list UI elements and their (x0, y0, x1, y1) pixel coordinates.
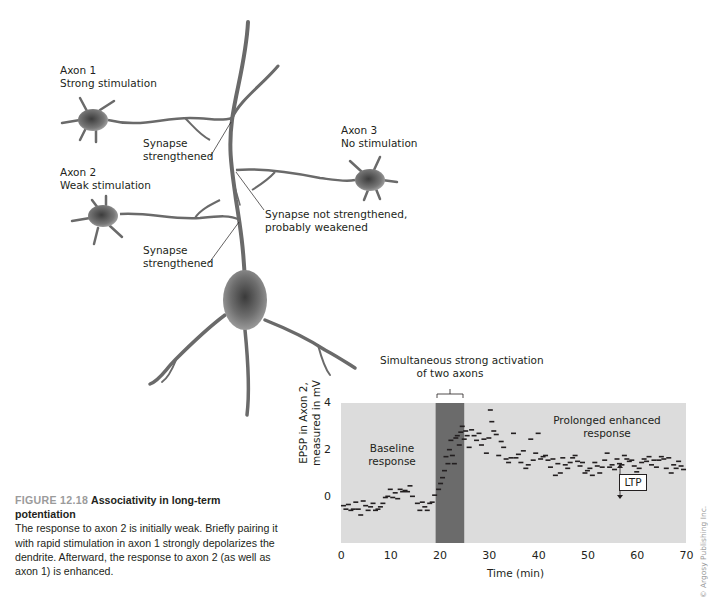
ytick-4: 4 (324, 396, 331, 409)
xtick-10: 10 (384, 549, 398, 562)
x-axis-title: Time (min) (487, 567, 544, 579)
data-point (597, 472, 602, 474)
data-point (548, 466, 553, 468)
data-point (582, 472, 587, 474)
data-point (438, 483, 443, 485)
xtick-60: 60 (630, 549, 644, 562)
data-point (380, 503, 385, 505)
data-point (671, 464, 676, 466)
data-point (509, 457, 514, 459)
data-point (513, 457, 518, 459)
xtick-30: 30 (482, 549, 496, 562)
data-point (528, 438, 533, 440)
data-point (341, 505, 346, 507)
data-point (605, 452, 610, 454)
data-point (375, 508, 380, 510)
data-point (681, 469, 686, 471)
data-point (430, 501, 435, 503)
data-point (453, 437, 458, 439)
data-point (521, 450, 526, 452)
data-point (607, 466, 612, 468)
data-point (563, 464, 568, 466)
data-point (565, 468, 570, 470)
data-point (398, 489, 403, 491)
cell-body (223, 270, 267, 330)
data-point (465, 435, 470, 437)
data-point (455, 435, 460, 437)
data-point (479, 444, 484, 446)
data-point (523, 468, 528, 470)
data-point (511, 433, 516, 435)
baseline-line1: Baseline (360, 442, 424, 455)
data-point (543, 455, 548, 457)
data-point (649, 464, 654, 466)
data-point (415, 503, 420, 505)
data-point (602, 459, 607, 461)
stimulation-bracket (437, 389, 463, 398)
data-point (674, 468, 679, 470)
data-point (469, 429, 474, 431)
data-point (516, 454, 521, 456)
data-point (405, 491, 410, 493)
axon1-desc: Strong stimulation (60, 77, 157, 90)
data-point (590, 475, 595, 477)
axon2-neuron (72, 196, 240, 244)
data-point (531, 459, 536, 461)
synapse1-label: Synapse strengthened (143, 137, 213, 163)
data-point (474, 440, 479, 442)
data-point (595, 465, 600, 467)
data-point (642, 458, 647, 460)
figure-caption: FIGURE 12.18 Associativity in long-term … (15, 493, 280, 578)
axon3-name: Axon 3 (341, 124, 417, 137)
data-point (659, 456, 664, 458)
data-point (356, 508, 361, 510)
data-point (395, 498, 400, 500)
data-point (442, 470, 447, 472)
data-point (518, 462, 523, 464)
y-axis-title: EPSP in Axon 2, measured in mV (297, 368, 323, 478)
enhanced-line1: Prolonged enhanced (547, 414, 667, 427)
data-point (408, 485, 413, 487)
data-point (570, 457, 575, 459)
data-point (560, 457, 565, 459)
data-point (592, 462, 597, 464)
data-point (533, 452, 538, 454)
data-point (538, 458, 543, 460)
data-point (624, 458, 629, 460)
synapse3-line2: probably weakened (265, 221, 407, 234)
synapse2-label: Synapse strengthened (143, 244, 213, 270)
data-point (664, 468, 669, 470)
data-point (432, 494, 437, 496)
data-point (637, 468, 642, 470)
data-point (575, 461, 580, 463)
data-point (363, 505, 368, 507)
data-point (452, 463, 457, 465)
data-point (353, 501, 358, 503)
data-point (546, 459, 551, 461)
data-point (390, 497, 395, 499)
data-point (484, 452, 489, 454)
data-point (651, 459, 656, 461)
synapse2-line2: strengthened (143, 257, 213, 270)
figure-number: FIGURE 12.18 (15, 494, 88, 506)
data-point (463, 430, 468, 432)
data-point (410, 496, 415, 498)
axon3-label: Axon 3 No stimulation (341, 124, 417, 150)
data-point (440, 477, 445, 479)
data-point (472, 435, 477, 437)
stimulation-band (436, 403, 465, 543)
data-point (661, 458, 666, 460)
xtick-20: 20 (433, 549, 447, 562)
data-point (462, 438, 467, 440)
data-point (393, 492, 398, 494)
data-point (676, 461, 681, 463)
data-point (600, 466, 605, 468)
axon1-name: Axon 1 (60, 64, 157, 77)
synapse2-line1: Synapse (143, 244, 213, 257)
data-point (460, 426, 465, 428)
data-point (610, 464, 615, 466)
ytick-0: 0 (324, 490, 331, 503)
data-point (679, 465, 684, 467)
axon3-desc: No stimulation (341, 137, 417, 150)
data-point (477, 433, 482, 435)
